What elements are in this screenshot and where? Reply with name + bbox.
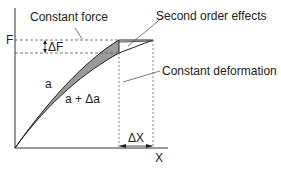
label-curve-a: a — [45, 78, 52, 90]
label-delta-x: ΔX — [128, 132, 144, 144]
label-constant-force: Constant force — [30, 11, 108, 23]
label-x-axis: X — [155, 152, 163, 164]
label-second-order: Second order effects — [156, 10, 267, 22]
delta-f-arrowhead-down — [43, 49, 47, 53]
label-delta-f: ΔF — [48, 41, 63, 53]
label-curve-a-plus: a + Δa — [65, 93, 100, 105]
leader-constant-deformation — [123, 71, 160, 82]
leader-constant-force — [75, 28, 82, 39]
delta-x-arrowhead-left — [119, 144, 126, 148]
delta-x-arrowhead-right — [146, 144, 153, 148]
label-y-axis: F — [6, 34, 13, 46]
force-deformation-diagram — [0, 0, 281, 172]
delta-f-arrowhead-up — [43, 40, 47, 44]
label-constant-deformation: Constant deformation — [162, 65, 277, 77]
